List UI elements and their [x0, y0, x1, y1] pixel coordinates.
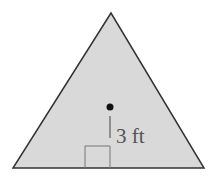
triangle — [13, 13, 204, 168]
center-point — [107, 104, 114, 111]
apothem-label: 3 ft — [116, 124, 145, 148]
triangle-diagram: 3 ft — [0, 0, 209, 183]
